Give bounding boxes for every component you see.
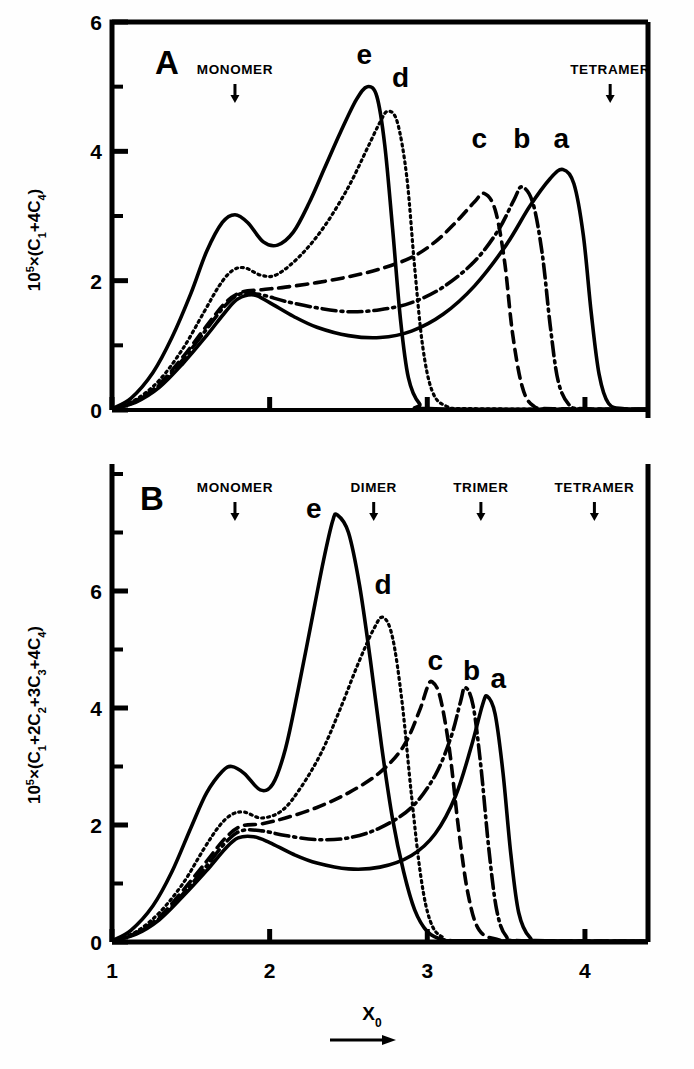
y-axis-title-a: 105×(C1+4C4) bbox=[24, 189, 48, 292]
marker-label-trimer: TRIMER bbox=[453, 480, 508, 495]
x-tick-label-4: 4 bbox=[579, 959, 591, 982]
curve-label-b-b: b bbox=[463, 655, 480, 686]
y-tick-label-b-4: 4 bbox=[90, 697, 102, 720]
panel-label-b: B bbox=[140, 480, 164, 517]
curve-label-e-a: e bbox=[356, 39, 372, 70]
curve-d-b bbox=[112, 617, 648, 941]
marker-monomer-b: MONOMER bbox=[197, 480, 273, 521]
marker-arrow-head-icon bbox=[230, 513, 239, 521]
marker-arrow-head-icon bbox=[230, 95, 239, 103]
x-axis-title: X0 bbox=[330, 1003, 396, 1045]
curve-d-a bbox=[112, 111, 648, 409]
y-tick-label-b-0: 0 bbox=[90, 931, 102, 954]
curve-label-c-b: c bbox=[427, 645, 443, 676]
x-tick-label-2: 2 bbox=[264, 959, 276, 982]
marker-arrow-head-icon bbox=[606, 95, 615, 103]
x-axis-arrow-head-icon bbox=[382, 1035, 396, 1045]
y-tick-label-a-0: 0 bbox=[90, 399, 102, 422]
marker-arrow-head-icon bbox=[369, 513, 378, 521]
marker-label-monomer: MONOMER bbox=[197, 480, 273, 495]
curve-label-a-a: a bbox=[554, 123, 570, 154]
curve-label-a-b: a bbox=[490, 663, 506, 694]
marker-dimer-b: DIMER bbox=[350, 480, 397, 521]
curve-label-c-a: c bbox=[472, 123, 488, 154]
y-tick-label-b-2: 2 bbox=[90, 814, 102, 837]
panel-label-a: A bbox=[155, 44, 179, 81]
figure-canvas: 0246AMONOMERTETRAMERabcde02461234BMONOME… bbox=[0, 0, 694, 1069]
panel-b: 02461234BMONOMERDIMERTRIMERTETRAMERabcde bbox=[90, 464, 648, 982]
marker-arrow-head-icon bbox=[476, 513, 485, 521]
marker-label-tetramer: TETRAMER bbox=[570, 62, 650, 77]
y-tick-label-b-6: 6 bbox=[90, 580, 102, 603]
marker-label-monomer: MONOMER bbox=[197, 62, 273, 77]
x-tick-label-3: 3 bbox=[421, 959, 433, 982]
marker-label-dimer: DIMER bbox=[350, 480, 397, 495]
curve-label-e-b: e bbox=[306, 493, 322, 524]
marker-monomer-a: MONOMER bbox=[197, 62, 273, 103]
y-tick-label-a-2: 2 bbox=[90, 270, 102, 293]
marker-arrow-head-icon bbox=[590, 513, 599, 521]
curve-label-d-a: d bbox=[392, 62, 409, 93]
marker-trimer-b: TRIMER bbox=[453, 480, 508, 521]
curve-c-a bbox=[112, 193, 648, 409]
curve-label-d-b: d bbox=[375, 569, 392, 600]
curve-label-b-a: b bbox=[513, 123, 530, 154]
marker-tetramer-a: TETRAMER bbox=[570, 62, 650, 103]
marker-label-tetramer: TETRAMER bbox=[555, 480, 635, 495]
x-tick-label-1: 1 bbox=[106, 959, 118, 982]
two-panel-line-chart: 0246AMONOMERTETRAMERabcde02461234BMONOME… bbox=[0, 0, 694, 1069]
y-tick-label-a-6: 6 bbox=[90, 11, 102, 34]
curve-b-a bbox=[112, 187, 648, 409]
y-tick-label-a-4: 4 bbox=[90, 140, 102, 163]
y-axis-title-b: 105×(C1+2C2+3C3+4C4) bbox=[24, 626, 48, 804]
x-axis-title-text: X0 bbox=[362, 1003, 382, 1030]
marker-tetramer-b: TETRAMER bbox=[555, 480, 635, 521]
panel-a: 0246AMONOMERTETRAMERabcde bbox=[90, 11, 650, 422]
